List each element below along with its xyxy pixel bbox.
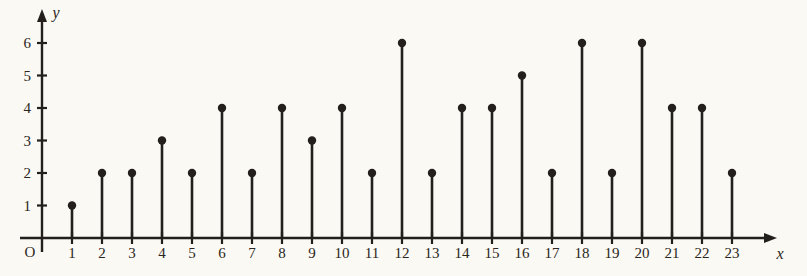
y-axis-tick-label: 6: [24, 35, 32, 51]
data-point-marker: [488, 104, 496, 112]
x-axis-tick-label: 21: [665, 245, 680, 261]
data-point-marker: [128, 169, 136, 177]
data-point-marker: [398, 39, 406, 47]
data-point-marker: [638, 39, 646, 47]
y-axis-tick-label: 4: [24, 100, 32, 116]
origin-label: O: [25, 244, 36, 260]
data-point-marker: [698, 104, 706, 112]
data-point-marker: [608, 169, 616, 177]
data-point-marker: [308, 136, 316, 144]
data-point-marker: [518, 71, 526, 79]
data-point-marker: [368, 169, 376, 177]
x-axis-tick-label: 9: [308, 245, 316, 261]
x-axis-tick-label: 3: [128, 245, 136, 261]
x-axis-tick-label: 12: [395, 245, 410, 261]
y-axis-tick-label: 2: [24, 165, 32, 181]
data-point-marker: [158, 136, 166, 144]
x-axis-tick-label: 18: [575, 245, 590, 261]
stem-plot-figure: 123456O123456789101112131415161718192021…: [0, 0, 807, 276]
x-axis-tick-label: 23: [725, 245, 740, 261]
x-axis-tick-label: 4: [158, 245, 166, 261]
x-axis-tick-label: 6: [218, 245, 226, 261]
x-axis-tick-label: 15: [485, 245, 500, 261]
x-axis-arrow-icon: [764, 233, 777, 243]
x-axis-tick-label: 8: [278, 245, 286, 261]
x-axis-tick-label: 5: [188, 245, 196, 261]
x-axis-tick-label: 20: [635, 245, 650, 261]
data-point-marker: [578, 39, 586, 47]
data-point-marker: [248, 169, 256, 177]
data-point-marker: [548, 169, 556, 177]
y-axis-tick-label: 5: [24, 68, 32, 84]
data-point-marker: [668, 104, 676, 112]
x-axis-name-label: x: [775, 245, 783, 262]
y-axis-tick-label: 1: [24, 198, 32, 214]
data-point-marker: [218, 104, 226, 112]
x-axis-tick-label: 19: [605, 245, 620, 261]
data-point-marker: [278, 104, 286, 112]
data-point-marker: [338, 104, 346, 112]
data-point-marker: [68, 201, 76, 209]
data-point-marker: [428, 169, 436, 177]
x-axis-tick-label: 16: [515, 245, 531, 261]
x-axis-tick-label: 17: [545, 245, 561, 261]
data-point-marker: [728, 169, 736, 177]
y-axis-arrow-icon: [37, 9, 47, 22]
stem-plot-canvas: 123456O123456789101112131415161718192021…: [0, 0, 807, 276]
y-axis-tick-label: 3: [24, 133, 32, 149]
x-axis-tick-label: 7: [248, 245, 256, 261]
data-point-marker: [458, 104, 466, 112]
y-axis-name-label: y: [50, 4, 60, 22]
x-axis-tick-label: 22: [695, 245, 710, 261]
x-axis-tick-label: 1: [68, 245, 76, 261]
x-axis-tick-label: 13: [425, 245, 440, 261]
data-point-marker: [98, 169, 106, 177]
x-axis-tick-label: 10: [335, 245, 350, 261]
x-axis-tick-label: 11: [365, 245, 379, 261]
x-axis-tick-label: 14: [455, 245, 471, 261]
x-axis-tick-label: 2: [98, 245, 106, 261]
data-point-marker: [188, 169, 196, 177]
